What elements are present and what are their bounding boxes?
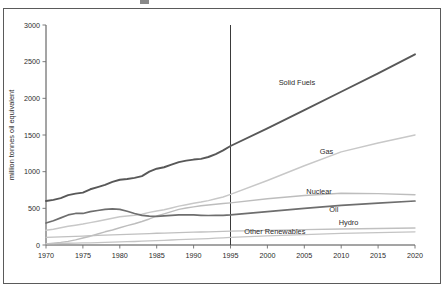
y-tick-label: 1000 — [24, 167, 40, 176]
x-tick-label: 2020 — [407, 251, 423, 260]
x-tick-label: 1975 — [75, 251, 91, 260]
x-tick-label: 1985 — [149, 251, 165, 260]
x-tick-label: 2000 — [259, 251, 275, 260]
chart-figure: 0500100015002000250030001970197519801985… — [0, 0, 446, 290]
y-tick-label: 0 — [36, 241, 40, 250]
x-tick-label: 2015 — [370, 251, 386, 260]
series-label-nuclear: Nuclear — [306, 187, 332, 196]
x-tick-label: 1990 — [186, 251, 202, 260]
y-tick-label: 1500 — [24, 131, 40, 140]
x-tick-label: 1980 — [112, 251, 128, 260]
x-tick-label: 2005 — [296, 251, 312, 260]
y-axis-title: million tonnes oil equivalent — [7, 90, 16, 180]
series-label-other-renewables: Other Renewables — [244, 227, 306, 236]
y-tick-label: 2000 — [24, 94, 40, 103]
series-label-hydro: Hydro — [339, 218, 359, 227]
series-label-solid-fuels: Solid Fuels — [279, 78, 316, 87]
x-tick-label: 1995 — [223, 251, 239, 260]
series-label-oil: Oil — [329, 205, 338, 214]
series-label-gas: Gas — [320, 147, 334, 156]
y-tick-label: 2500 — [24, 57, 40, 66]
y-tick-label: 3000 — [24, 21, 40, 30]
chart-canvas: 0500100015002000250030001970197519801985… — [0, 0, 446, 290]
x-tick-label: 2010 — [333, 251, 349, 260]
y-tick-label: 500 — [28, 204, 40, 213]
x-tick-label: 1970 — [38, 251, 54, 260]
